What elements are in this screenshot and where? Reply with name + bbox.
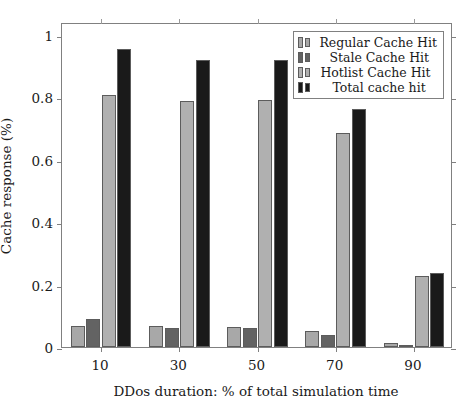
legend-swatch-icon [305, 68, 310, 77]
y-axis-tick-label: 0.6 [13, 153, 53, 169]
y-axis-tick-label: 0.4 [13, 215, 53, 231]
bar [149, 326, 163, 347]
legend-label: Stale Cache Hit [329, 50, 429, 65]
y-axis-tick-right [451, 99, 456, 100]
bar [165, 328, 179, 347]
x-axis-tick-label: 30 [170, 357, 187, 373]
x-axis-tick-label: 10 [92, 357, 109, 373]
legend-swatch-icon [298, 67, 303, 78]
x-axis-tick [179, 347, 180, 352]
y-axis-tick [57, 162, 62, 163]
bar [196, 60, 210, 347]
bar [305, 331, 319, 347]
y-axis-tick-label: 1 [13, 28, 53, 44]
legend-swatch-icon [305, 53, 310, 62]
y-axis-tick [57, 224, 62, 225]
bar [321, 335, 335, 348]
legend-label: Hotlist Cache Hit [320, 65, 430, 80]
bar [180, 101, 194, 347]
y-axis-tick [57, 37, 62, 38]
x-axis-tick-top [101, 19, 102, 24]
y-axis-tick [57, 349, 62, 350]
bar [384, 343, 398, 347]
legend-entry: Stale Cache Hit [298, 50, 437, 65]
legend-swatch-group [298, 37, 318, 48]
x-axis-tick [258, 347, 259, 352]
legend-entry: Regular Cache Hit [298, 35, 437, 50]
bar [274, 60, 288, 347]
x-axis-title: DDos duration: % of total simulation tim… [114, 383, 399, 399]
y-axis-tick-right [451, 287, 456, 288]
y-axis-tick-right [451, 349, 456, 350]
legend-swatch-icon [298, 52, 303, 63]
bar [71, 326, 85, 347]
bar [117, 49, 131, 347]
bar [352, 109, 366, 347]
legend-swatch-icon [305, 38, 310, 47]
legend-swatch-group [298, 52, 318, 63]
bar [336, 133, 350, 347]
x-axis-tick-top [258, 19, 259, 24]
bar-chart-figure: Cache response (%) DDos duration: % of t… [0, 0, 469, 417]
x-axis-tick-label: 50 [248, 357, 265, 373]
legend-entry: Total cache hit [298, 80, 437, 95]
legend-entry: Hotlist Cache Hit [298, 65, 437, 80]
x-axis-tick-top [414, 19, 415, 24]
bar [258, 100, 272, 347]
bar [243, 328, 257, 347]
y-axis-tick-right [451, 224, 456, 225]
y-axis-tick-label: 0.8 [13, 90, 53, 106]
x-axis-tick [101, 347, 102, 352]
legend-swatch-group [298, 82, 318, 93]
bar [227, 327, 241, 347]
legend-swatch-icon [305, 83, 310, 92]
y-axis-tick-right [451, 37, 456, 38]
bar [399, 345, 413, 347]
plot-frame: Regular Cache HitStale Cache HitHotlist … [61, 23, 452, 348]
legend-label: Total cache hit [332, 80, 425, 95]
x-axis-tick [414, 347, 415, 352]
legend-swatch-group [298, 67, 318, 78]
legend-swatch-icon [298, 37, 303, 48]
x-axis-tick-label: 70 [326, 357, 343, 373]
x-axis-tick-top [179, 19, 180, 24]
bar [430, 273, 444, 347]
x-axis-tick-top [336, 19, 337, 24]
legend-label: Regular Cache Hit [319, 35, 437, 50]
y-axis-tick-label: 0.2 [13, 278, 53, 294]
y-axis-tick [57, 99, 62, 100]
x-axis-tick [336, 347, 337, 352]
bar [102, 95, 116, 348]
chart-legend: Regular Cache HitStale Cache HitHotlist … [293, 31, 444, 99]
bar [86, 319, 100, 347]
y-axis-tick-right [451, 162, 456, 163]
x-axis-tick-label: 90 [404, 357, 421, 373]
y-axis-title: Cache response (%) [0, 118, 14, 254]
y-axis-tick [57, 287, 62, 288]
legend-swatch-icon [298, 82, 303, 93]
y-axis-tick-label: 0 [13, 340, 53, 356]
bar [415, 276, 429, 347]
